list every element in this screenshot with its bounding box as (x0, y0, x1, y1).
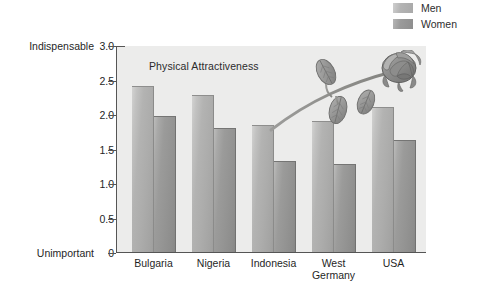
bar-group (312, 46, 355, 253)
bar-group (132, 46, 175, 253)
y-axis-line (116, 46, 117, 253)
legend-swatch-men-icon (393, 3, 413, 13)
legend-item-men: Men (393, 1, 485, 14)
bar-women-indonesia[interactable] (274, 161, 296, 253)
x-axis-tick-labels: BulgariaNigeriaIndonesiaWest GermanyUSA (116, 257, 426, 281)
bar-men-bulgaria[interactable] (132, 86, 154, 253)
bar-men-nigeria[interactable] (192, 95, 214, 253)
bar-group (192, 46, 235, 253)
legend-swatch-women-icon (393, 19, 413, 29)
bar-men-usa[interactable] (372, 107, 394, 253)
bar-men-west-germany[interactable] (312, 121, 334, 253)
legend-label-women: Women (421, 18, 457, 30)
y-axis-tick (108, 150, 116, 151)
bar-men-indonesia[interactable] (252, 125, 274, 253)
y-axis-tick (108, 219, 116, 220)
chart-legend: Men Women (393, 1, 485, 33)
y-axis-top-cap (116, 46, 125, 47)
bar-group (252, 46, 295, 253)
bar-women-west-germany[interactable] (334, 164, 356, 253)
bar-group (372, 46, 415, 253)
x-axis-label-usa: USA (354, 257, 434, 269)
y-axis-anchor-high-label: Indispensable (22, 40, 94, 52)
chart-title: Physical Attractiveness (149, 60, 259, 72)
bar-series-container (116, 46, 426, 253)
y-axis-tick (108, 253, 116, 254)
x-axis-line (116, 252, 426, 253)
y-axis-tick (108, 115, 116, 116)
bar-women-bulgaria[interactable] (154, 116, 176, 253)
legend-item-women: Women (393, 17, 485, 30)
y-axis-tick (108, 81, 116, 82)
y-axis-anchor-low-label: Unimportant (20, 247, 94, 259)
bar-women-nigeria[interactable] (214, 128, 236, 253)
legend-label-men: Men (421, 2, 441, 14)
plot-area: Physical Attractiveness (116, 46, 426, 253)
y-axis-tick (108, 184, 116, 185)
bar-women-usa[interactable] (394, 140, 416, 253)
y-axis-tick (108, 46, 116, 47)
